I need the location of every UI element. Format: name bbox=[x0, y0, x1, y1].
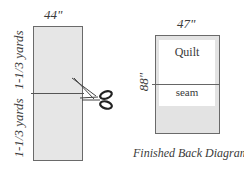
seam-label: seam bbox=[159, 87, 215, 98]
back-height-label: 88" bbox=[137, 73, 150, 91]
back-width-label: 47" bbox=[177, 17, 195, 30]
diagram-caption: Finished Back Diagram bbox=[133, 147, 244, 159]
fabric-width-label: 44" bbox=[44, 8, 62, 21]
upper-length-label: 1-1/3 yards bbox=[12, 30, 25, 89]
lower-length-label: 1-1/3 yards bbox=[12, 98, 25, 157]
seam-line bbox=[152, 84, 220, 85]
scissors-icon bbox=[70, 76, 116, 112]
quilt-label: Quilt bbox=[159, 46, 215, 58]
